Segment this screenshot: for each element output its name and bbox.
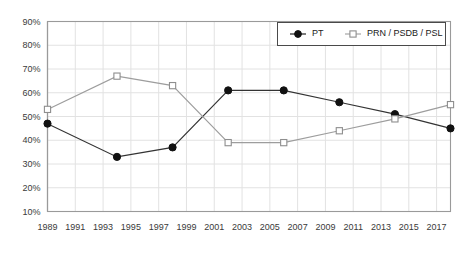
x-axis-tick-label: 2003	[232, 222, 252, 232]
legend-marker-filled-circle-icon	[295, 31, 302, 38]
x-axis-tick-label: 2005	[260, 222, 280, 232]
chart-container: 10%20%30%40%50%60%70%80%90% 198919911993…	[0, 0, 474, 256]
x-axis-tick-label: 1997	[149, 222, 169, 232]
x-axis-tick-label: 2017	[427, 222, 447, 232]
y-axis-tick-label: 70%	[22, 64, 40, 74]
data-point-marker	[336, 128, 342, 134]
x-axis-tick-label: 2013	[371, 222, 391, 232]
y-axis-tick-label: 10%	[22, 207, 40, 217]
y-axis-tick-label: 80%	[22, 40, 40, 50]
data-point-marker	[281, 140, 287, 146]
data-point-marker	[114, 73, 120, 79]
data-point-marker	[225, 87, 232, 94]
y-axis-tick-label: 90%	[22, 17, 40, 27]
line-chart: 10%20%30%40%50%60%70%80%90% 198919911993…	[0, 0, 474, 256]
data-point-marker	[44, 120, 51, 127]
data-point-marker	[113, 153, 120, 160]
legend-marker-open-square-icon	[350, 31, 356, 37]
legend-label-pt: PT	[312, 28, 324, 38]
x-axis-tick-label: 1991	[65, 222, 85, 232]
data-point-marker	[44, 106, 50, 112]
legend-label-opposition: PRN / PSDB / PSL	[367, 28, 443, 38]
chart-legend: PTPRN / PSDB / PSL	[278, 23, 446, 46]
data-point-marker	[336, 99, 343, 106]
x-axis-tick-label: 2001	[204, 222, 224, 232]
y-axis-tick-label: 50%	[22, 112, 40, 122]
y-axis-tick-label: 30%	[22, 159, 40, 169]
data-point-marker	[225, 140, 231, 146]
x-axis-tick-label: 2015	[399, 222, 419, 232]
data-point-marker	[447, 125, 454, 132]
data-point-marker	[280, 87, 287, 94]
data-point-marker	[169, 144, 176, 151]
data-point-marker	[169, 83, 175, 89]
data-point-marker	[392, 116, 398, 122]
y-axis-tick-label: 40%	[22, 135, 40, 145]
x-axis-tick-label: 1995	[121, 222, 141, 232]
x-axis-tick-label: 2009	[315, 222, 335, 232]
x-axis-tick-label: 1993	[93, 222, 113, 232]
y-axis-tick-label: 60%	[22, 88, 40, 98]
x-axis-tick-label: 1999	[176, 222, 196, 232]
x-axis-tick-label: 1989	[37, 222, 57, 232]
x-axis-tick-label: 2007	[288, 222, 308, 232]
x-axis-tick-label: 2011	[344, 222, 363, 232]
data-point-marker	[447, 102, 453, 108]
y-axis-tick-label: 20%	[22, 183, 40, 193]
